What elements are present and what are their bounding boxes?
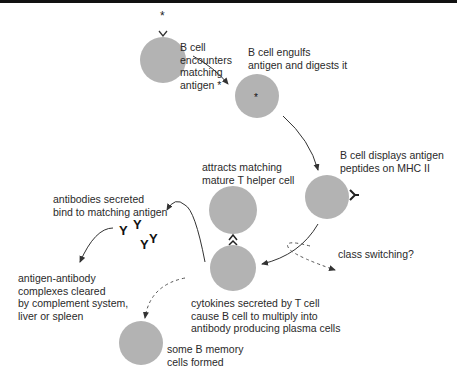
label-encounter: B cell encounters matching antigen * [180, 41, 232, 91]
t-helper-cell [209, 186, 257, 234]
plasma-b-cell [210, 245, 256, 291]
svg-text:Y: Y [133, 217, 142, 232]
b-cell-display [305, 175, 359, 219]
svg-text:Y: Y [119, 223, 128, 238]
label-cleared: antigen-antibody complexes cleared by co… [18, 272, 128, 322]
arrow-plasma-to-memory [145, 278, 185, 318]
label-attracts: attracts matching mature T helper cell [202, 161, 294, 186]
digested-antigen-icon: * [254, 92, 258, 103]
svg-text:Y: Y [140, 237, 149, 252]
antibodies-icon-group: Y Y Y Y [119, 217, 158, 252]
b-cell-engulf: * [235, 74, 279, 118]
memory-b-cell [119, 321, 163, 365]
arrow-antibodies-to-cleared [80, 228, 113, 262]
mhc-receptor-icon [350, 190, 359, 200]
arrow-plasma-to-antibodies [167, 201, 205, 262]
arrow-display-to-plasma [262, 224, 318, 264]
label-class-switching: class switching? [338, 248, 414, 261]
arrow-class-switching [288, 243, 336, 270]
antigen-asterisk-icon: * [160, 9, 165, 23]
label-antibodies: antibodies secreted bind to matching ant… [53, 193, 167, 218]
tcr-binding-icon [229, 235, 237, 245]
label-display: B cell displays antigen peptides on MHC … [340, 149, 444, 174]
label-memory: some B memory cells formed [167, 343, 243, 368]
label-cytokines: cytokines secreted by T cell cause B cel… [191, 297, 340, 335]
label-engulf: B cell engulfs antigen and digests it [248, 46, 347, 71]
receptor-icon [159, 31, 167, 36]
svg-text:Y: Y [149, 231, 158, 246]
